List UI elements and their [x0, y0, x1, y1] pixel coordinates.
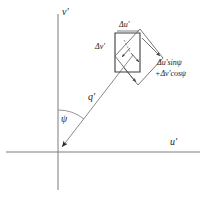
delta-v-leader — [124, 40, 130, 52]
resultant-arrow-upper — [142, 38, 160, 56]
vertical-axis-label: v′ — [62, 7, 69, 18]
resultant-expression-line1: Δu′sinψ — [157, 58, 182, 68]
velocity-component-diagram: v′ u′ q′ ψ Δu′ Δv′ Δu′sinψ +Δv′cosψ — [0, 0, 209, 198]
diagram-canvas — [0, 0, 209, 198]
delta-u-inner-arrow — [131, 53, 139, 62]
q-prime-label: q′ — [88, 92, 95, 103]
delta-u-label: Δu′ — [119, 21, 129, 29]
resultant-expression-line2: +Δv′cosψ — [155, 69, 186, 79]
q-prime-vector — [62, 55, 133, 147]
resultant-arrow-lower — [124, 68, 136, 82]
psi-angle-label: ψ — [61, 114, 67, 125]
horizontal-axis-label: u′ — [170, 137, 177, 148]
delta-v-label: Δv′ — [95, 43, 105, 51]
delta-v-inner-arrow — [122, 48, 130, 57]
